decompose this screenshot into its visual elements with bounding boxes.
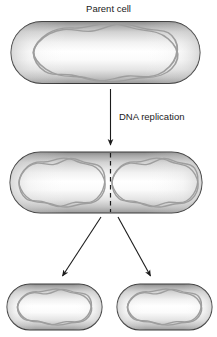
parent-cell-shading — [11, 22, 200, 84]
binary-fission-diagram: Parent cell DNA replication — [0, 0, 217, 337]
replicated-cell — [10, 152, 202, 213]
parent-cell — [11, 22, 200, 84]
split-arrow-right — [118, 217, 151, 276]
dna-replication-label: DNA replication — [119, 111, 184, 122]
daughter-cell-left — [7, 284, 102, 330]
parent-cell-label: Parent cell — [86, 3, 131, 14]
daughter-cell-right — [117, 284, 212, 330]
split-arrow-left — [63, 217, 102, 276]
